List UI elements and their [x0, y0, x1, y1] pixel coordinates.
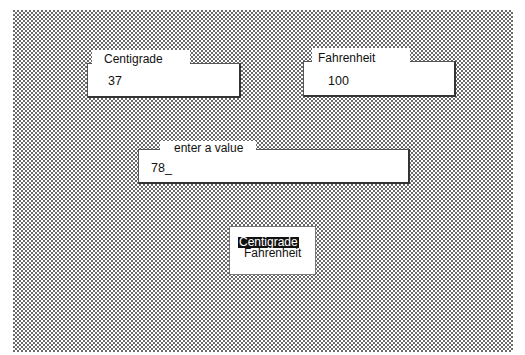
- unit-selector-listbox[interactable]: Centigrade Fahrenheit: [229, 226, 316, 275]
- fahrenheit-value[interactable]: 100: [328, 74, 349, 88]
- entry-input[interactable]: 78_: [151, 161, 172, 175]
- option-fahrenheit[interactable]: Fahrenheit: [243, 248, 302, 259]
- fahrenheit-field[interactable]: [303, 61, 456, 97]
- centigrade-label-tab: Centigrade: [92, 50, 190, 64]
- entry-label: enter a value: [174, 142, 243, 155]
- fahrenheit-label: Fahrenheit: [318, 52, 375, 65]
- centigrade-value[interactable]: 37: [108, 74, 122, 88]
- centigrade-label: Centigrade: [104, 53, 163, 66]
- fahrenheit-label-tab: Fahrenheit: [312, 48, 410, 62]
- entry-label-tab: enter a value: [160, 141, 256, 153]
